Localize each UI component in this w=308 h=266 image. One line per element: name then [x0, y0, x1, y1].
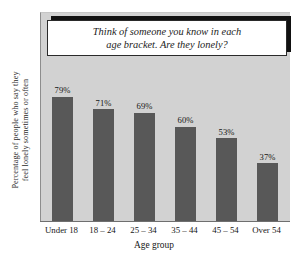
bar-value-label: 71%: [96, 98, 112, 108]
bar-value-label: 60%: [178, 115, 194, 125]
callout-box: Think of someone you know in each age br…: [47, 20, 287, 56]
y-axis-title: Percentage of people who say they feel l…: [6, 38, 36, 222]
bar: [52, 97, 73, 222]
x-axis-tick-label: 18 – 24: [89, 224, 115, 236]
bar-value-label: 37%: [260, 152, 276, 162]
bar-value-label: 53%: [219, 127, 235, 137]
bar: [93, 109, 114, 222]
y-axis-title-text: Percentage of people who say they feel l…: [11, 71, 32, 188]
x-axis-title: Age group: [0, 240, 308, 250]
x-axis-line: [40, 221, 290, 222]
bar-chart-figure: Percentage of people who say they feel l…: [0, 0, 308, 266]
bar: [216, 138, 237, 222]
x-axis-tick-labels: Under 1818 – 2425 – 3435 – 4445 – 54Over…: [40, 224, 290, 238]
y-axis-title-line-1: Percentage of people who say they: [11, 71, 20, 188]
x-axis-tick-label: 45 – 54: [212, 224, 238, 236]
x-axis-tick-label: Over 54: [252, 224, 281, 236]
bar: [134, 113, 155, 222]
bar-value-label: 69%: [137, 101, 153, 111]
bar: [257, 163, 278, 222]
x-axis-tick-label: Under 18: [45, 224, 78, 236]
callout-text: Think of someone you know in each age br…: [93, 25, 241, 51]
x-axis-tick-label: 35 – 44: [171, 224, 197, 236]
x-axis-tick-label: 25 – 34: [130, 224, 156, 236]
y-axis-title-line-2: feel lonely sometimes or often: [21, 71, 31, 188]
bar-value-label: 79%: [55, 85, 71, 95]
bar: [175, 127, 196, 222]
